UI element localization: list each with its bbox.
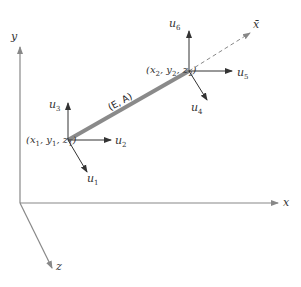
x-axis-label: x [283, 196, 289, 209]
u5-label: u5 [237, 66, 249, 81]
u3-label: u3 [49, 98, 61, 113]
u6-label: u6 [169, 17, 181, 32]
node1-coords: (x1, y1, z1) [26, 134, 77, 148]
truss-bar [68, 71, 189, 140]
u1-label: u1 [87, 172, 99, 187]
u4-label: u4 [191, 101, 203, 116]
local-x-label: x̄ [253, 18, 259, 31]
z-axis [20, 203, 52, 268]
y-axis-label: y [11, 30, 17, 43]
node2-coords: (x2, y2, z2) [146, 64, 197, 78]
z-axis-label: z [56, 260, 62, 273]
u2-label: u2 [115, 134, 127, 149]
